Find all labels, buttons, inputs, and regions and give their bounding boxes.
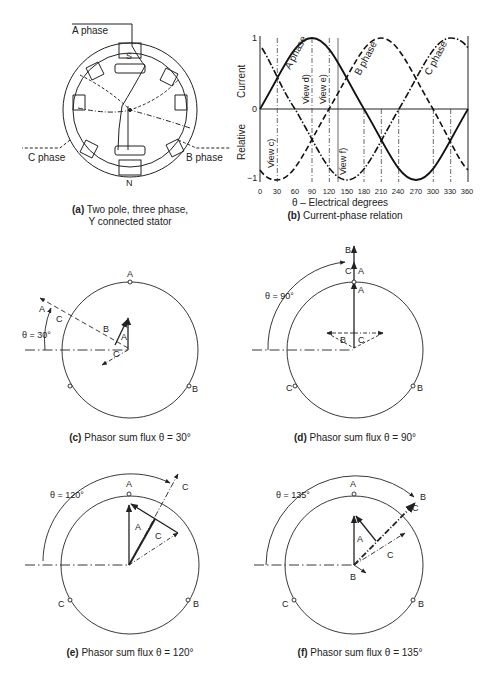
svg-text:A: A [350,479,356,489]
svg-text:150: 150 [341,187,354,196]
svg-text:B: B [345,245,351,255]
theta-135-label: θ = 135° [276,490,310,500]
svg-text:240: 240 [392,187,405,196]
svg-text:A: A [135,522,141,532]
svg-text:C: C [286,383,293,393]
svg-text:C: C [56,314,63,324]
svg-text:A: A [126,479,132,489]
x-ticks: 0 30 60 90 120 150 180 210 240 270 300 3… [258,187,473,196]
a-phase-series-label: A phase [282,33,309,70]
svg-text:C: C [387,550,394,560]
current-phase-chart: 1 0 −1 0 30 60 90 120 150 180 210 240 27… [236,33,473,208]
svg-text:B: B [350,572,356,582]
y-tick-1: 1 [252,33,257,43]
caption-c: (c) Phasor sum flux θ = 30° [55,432,205,444]
svg-text:90: 90 [308,187,316,196]
a-phase-label: A phase [72,25,109,36]
y-tick-0: 0 [252,104,257,114]
winding-dashed [80,75,178,110]
south-pole-label: S [126,51,132,61]
caption-f: (f) Phasor sum flux θ = 135° [280,647,440,659]
y-label-relative: Relative [236,123,247,160]
svg-text:B: B [103,324,109,334]
svg-text:C: C [182,482,189,492]
svg-text:C: C [155,531,162,541]
caption-a: (a) Two pole, three phase, Y connected s… [60,204,200,228]
theta-120-label: θ = 120° [50,490,84,500]
phasor-135-labels: A A C B B C C B θ = 135° [276,479,426,609]
svg-text:A: A [358,266,364,276]
svg-text:B: B [418,599,424,609]
svg-text:A: A [358,285,364,295]
phasor-30-labels: A B A C B A C θ = 30° [22,269,198,394]
b-phase-series-label: B phase [352,39,379,77]
svg-text:A: A [357,534,363,544]
svg-text:300: 300 [427,187,440,196]
b-phase-label: B phase [186,152,223,163]
phasor-diagram-90 [252,246,423,418]
c-phase-label: C phase [28,152,66,163]
caption-b: (b) Current-phase relation [280,210,410,222]
svg-text:A: A [127,269,133,279]
svg-text:C: C [358,335,365,345]
svg-text:C: C [345,266,352,276]
figure-canvas: A phase S N C phase B phase 1 0 −1 0 [0,0,481,677]
svg-text:C: C [282,599,289,609]
y-label-current: Current [236,64,247,98]
phasor-90-labels: B C A A B C C B θ = 90° [265,245,423,393]
svg-text:A: A [39,304,45,314]
view-e-label: View e) [318,74,328,104]
caption-e: (e) Phasor sum flux θ = 120° [50,647,210,659]
theta-30-label: θ = 30° [22,330,51,340]
phasor-120-labels: A A C C C B θ = 120° [50,479,199,609]
x-axis-label: θ – Electrical degrees [292,197,388,208]
theta-90-label: θ = 90° [265,291,294,301]
svg-text:0: 0 [258,187,262,196]
svg-text:120: 120 [323,187,336,196]
svg-text:270: 270 [410,187,423,196]
svg-text:C: C [412,503,419,513]
c-phase-series-label: C phase [422,39,449,77]
view-d-label: View d) [301,74,311,104]
svg-text:A: A [121,332,127,342]
svg-text:330: 330 [444,187,457,196]
north-pole-label: N [126,178,133,188]
phasor-diagram-30 [25,280,198,418]
view-f-label: View f) [338,148,348,175]
svg-text:B: B [193,599,199,609]
svg-text:180: 180 [358,187,371,196]
svg-text:B: B [417,383,423,393]
svg-text:210: 210 [375,187,388,196]
svg-text:B: B [340,335,346,345]
svg-text:B: B [192,384,198,394]
svg-text:C: C [113,349,120,359]
svg-text:360: 360 [461,187,474,196]
caption-d: (d) Phasor sum flux θ = 90° [280,432,430,444]
svg-text:C: C [58,599,65,609]
y-tick-neg1: −1 [247,173,257,183]
svg-text:60: 60 [291,187,299,196]
svg-text:30: 30 [273,187,281,196]
svg-text:B: B [420,492,426,502]
view-c-label: View c) [266,139,276,168]
